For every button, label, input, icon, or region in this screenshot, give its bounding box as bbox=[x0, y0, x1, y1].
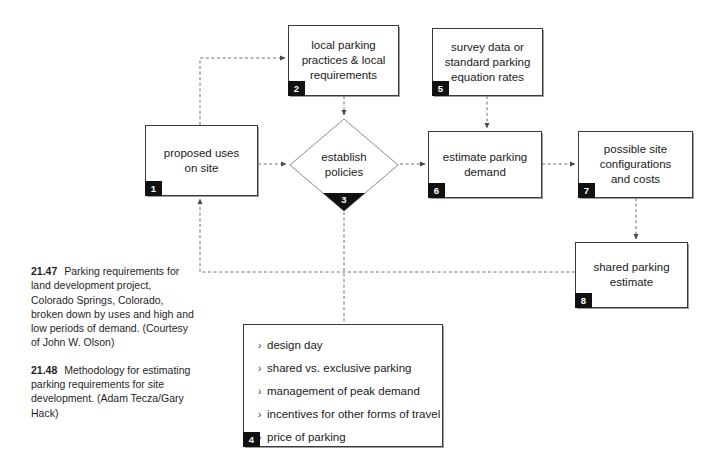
node-label: proposed uses on site bbox=[158, 146, 245, 176]
node-number-badge: 7 bbox=[578, 183, 595, 198]
node-proposed-uses[interactable]: proposed uses on site 1 bbox=[145, 125, 258, 196]
node-number-badge: 6 bbox=[428, 183, 445, 198]
node-shared-parking-estimate[interactable]: shared parking estimate 8 bbox=[575, 242, 688, 308]
connector-1-to-2 bbox=[200, 58, 285, 125]
list-item: ›incentives for other forms of travel bbox=[258, 407, 442, 422]
node-number-badge: 4 bbox=[243, 432, 260, 447]
figure-captions: 21.47Parking requirements for land devel… bbox=[31, 264, 196, 433]
list-item: ›shared vs. exclusive parking bbox=[258, 361, 442, 376]
node-label: estimate parking demand bbox=[437, 150, 533, 180]
chevron-right-icon: › bbox=[258, 407, 267, 422]
node-estimate-parking-demand[interactable]: estimate parking demand 6 bbox=[428, 131, 542, 198]
node-number-badge: 3 bbox=[329, 193, 359, 212]
node-number-badge: 1 bbox=[145, 181, 162, 196]
node-label: survey data or standard parking equation… bbox=[439, 40, 537, 85]
node-label: establish policies bbox=[289, 150, 399, 180]
node-number-badge: 8 bbox=[575, 293, 592, 308]
node-number-badge: 2 bbox=[288, 81, 305, 96]
caption-number: 21.47 bbox=[31, 265, 57, 277]
node-survey-data[interactable]: survey data or standard parking equation… bbox=[432, 28, 543, 96]
node-policy-considerations-list[interactable]: ›design day ›shared vs. exclusive parkin… bbox=[243, 324, 443, 447]
chevron-right-icon: › bbox=[258, 384, 267, 399]
node-local-parking-practices[interactable]: local parking practices & local requirem… bbox=[288, 25, 399, 96]
policy-list: ›design day ›shared vs. exclusive parkin… bbox=[258, 338, 442, 445]
caption-21-48: 21.48Methodology for estimating parking … bbox=[31, 363, 196, 420]
node-label: local parking practices & local requirem… bbox=[296, 38, 392, 83]
chevron-right-icon: › bbox=[258, 361, 267, 376]
node-establish-policies-decision[interactable]: establish policies 3 bbox=[289, 118, 399, 212]
diagram-canvas: proposed uses on site 1 local parking pr… bbox=[0, 0, 716, 471]
list-item: ›design day bbox=[258, 338, 442, 353]
chevron-right-icon: › bbox=[258, 338, 267, 353]
list-item: ›price of parking bbox=[258, 430, 442, 445]
caption-21-47: 21.47Parking requirements for land devel… bbox=[31, 264, 196, 350]
node-number-badge: 5 bbox=[432, 81, 449, 96]
node-label: shared parking estimate bbox=[587, 260, 675, 290]
list-item: ›management of peak demand bbox=[258, 384, 442, 399]
caption-number: 21.48 bbox=[31, 364, 57, 376]
node-label: possible site configurations and costs bbox=[594, 142, 678, 187]
node-possible-site-configurations[interactable]: possible site configurations and costs 7 bbox=[578, 131, 693, 198]
caption-body: Parking requirements for land developmen… bbox=[31, 265, 194, 348]
